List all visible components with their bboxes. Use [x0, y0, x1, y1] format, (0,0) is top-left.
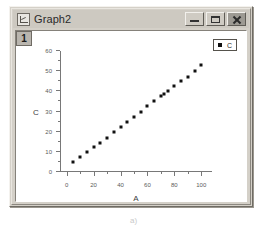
x-tick-label: 0	[65, 182, 68, 188]
data-point	[119, 125, 122, 128]
y-tick-minor	[58, 60, 60, 61]
y-tick-label: 10	[45, 149, 52, 155]
y-tick-label: 50	[45, 68, 52, 74]
y-tick	[56, 131, 60, 132]
data-point	[85, 150, 88, 153]
close-button[interactable]	[227, 12, 246, 26]
minimize-button[interactable]	[185, 12, 204, 26]
y-axis-line	[60, 51, 61, 172]
y-tick-minor	[58, 80, 60, 81]
x-tick-label: 20	[90, 182, 97, 188]
x-tick-label: 80	[171, 182, 178, 188]
y-tick-minor	[58, 121, 60, 122]
y-tick-minor	[58, 161, 60, 162]
x-tick	[147, 172, 148, 176]
y-tick-label: 0	[49, 169, 52, 175]
x-tick	[94, 172, 95, 176]
title-bar[interactable]: Graph2	[13, 10, 249, 28]
data-point	[79, 155, 82, 158]
x-tick	[174, 172, 175, 176]
y-tick	[56, 70, 60, 71]
data-point	[146, 105, 149, 108]
x-axis-label: A	[133, 194, 138, 202]
data-point	[186, 76, 189, 79]
data-point	[173, 85, 176, 88]
x-tick-label: 100	[196, 182, 206, 188]
x-tick	[121, 172, 122, 176]
x-tick	[201, 172, 202, 176]
y-tick-label: 60	[45, 48, 52, 54]
y-tick	[56, 90, 60, 91]
x-tick-minor	[80, 172, 81, 174]
y-tick	[56, 50, 60, 51]
data-point	[180, 80, 183, 83]
plot-legend[interactable]: C	[213, 39, 237, 51]
legend-marker-icon	[218, 43, 222, 47]
data-point	[166, 90, 169, 93]
data-point	[72, 160, 75, 163]
data-point	[99, 141, 102, 144]
x-tick-label: 60	[144, 182, 151, 188]
x-tick-minor	[161, 172, 162, 174]
data-point	[162, 93, 165, 96]
figure-caption: a)	[0, 216, 267, 225]
graph-window[interactable]: Graph2 1 C 020406080100 0102030405060 A …	[9, 6, 253, 207]
y-tick-label: 30	[45, 109, 52, 115]
data-point	[106, 136, 109, 139]
data-point	[132, 115, 135, 118]
y-tick	[56, 171, 60, 172]
y-axis-label: C	[33, 107, 39, 116]
data-point	[139, 110, 142, 113]
y-tick-minor	[58, 100, 60, 101]
window-title: Graph2	[34, 13, 183, 25]
maximize-button[interactable]	[206, 12, 225, 26]
x-tick-label: 40	[117, 182, 124, 188]
data-point	[126, 120, 129, 123]
layer-indicator[interactable]: 1	[16, 31, 32, 46]
x-axis-line	[60, 171, 212, 172]
x-tick-minor	[107, 172, 108, 174]
data-point	[200, 64, 203, 67]
legend-entry-label: C	[227, 42, 232, 49]
x-tick	[67, 172, 68, 176]
y-tick-label: 20	[45, 129, 52, 135]
data-point	[92, 145, 95, 148]
graph-document-icon	[17, 13, 30, 26]
y-tick-label: 40	[45, 88, 52, 94]
y-tick	[56, 111, 60, 112]
y-tick	[56, 151, 60, 152]
plot-area[interactable]: 020406080100 0102030405060 A C	[60, 51, 212, 172]
data-point	[193, 70, 196, 73]
x-tick-minor	[188, 172, 189, 174]
y-tick-minor	[58, 141, 60, 142]
x-tick-minor	[134, 172, 135, 174]
data-point	[112, 130, 115, 133]
data-point	[153, 100, 156, 103]
graph-page-canvas[interactable]: 1 C 020406080100 0102030405060 A C	[15, 30, 247, 202]
